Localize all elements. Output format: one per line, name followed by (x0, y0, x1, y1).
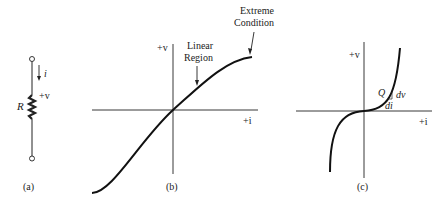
extreme-annotation-line2: Condition (234, 17, 274, 28)
current-arrow-icon (37, 76, 41, 81)
bottom-terminal (30, 156, 35, 161)
vi-curve (92, 57, 252, 193)
caption-a: (a) (23, 181, 34, 193)
top-terminal (30, 57, 35, 62)
figure: i +v R (a) +v +i Linear Region Extreme C… (0, 0, 448, 204)
dv-label: dv (396, 89, 406, 100)
extreme-arrow-icon (248, 48, 252, 55)
panel-b-linear-characteristic: +v +i Linear Region Extreme Condition (b… (92, 5, 274, 193)
voltage-label: +v (39, 90, 50, 101)
di-label: di (385, 100, 393, 111)
extreme-pointer (251, 32, 254, 50)
point-q-label: Q (378, 87, 386, 98)
resistor-icon (29, 95, 35, 119)
linear-annotation-line2: Region (184, 52, 213, 63)
x-axis-label: +i (243, 115, 252, 126)
panel-a-resistor-circuit: i +v R (a) (16, 57, 50, 194)
extreme-annotation-line1: Extreme (240, 5, 274, 16)
x-axis-label: +i (419, 116, 428, 127)
caption-c: (c) (357, 181, 368, 193)
linear-arrow-icon (195, 80, 199, 86)
panel-c-nonlinear-characteristic: +v +i Q dv di (c) (296, 42, 432, 193)
y-axis-label: +v (349, 49, 360, 60)
linear-annotation-line1: Linear (187, 40, 214, 51)
current-label: i (44, 68, 47, 79)
caption-b: (b) (166, 181, 178, 193)
resistor-label: R (16, 100, 24, 112)
y-axis-label: +v (157, 42, 168, 53)
